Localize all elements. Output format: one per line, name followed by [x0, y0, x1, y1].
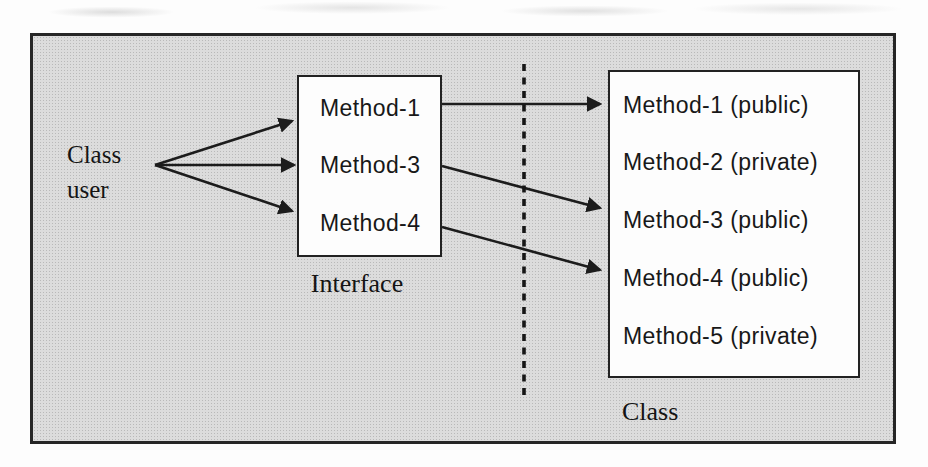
- interface-method-1: Method-1: [320, 94, 420, 122]
- class-method-1-public: Method-1 (public): [623, 91, 809, 119]
- scan-artifact-band: [0, 0, 928, 22]
- class-method-3-public: Method-3 (public): [623, 206, 809, 234]
- interface-caption: Interface: [297, 269, 417, 299]
- interface-method-3: Method-3: [320, 151, 420, 179]
- class-method-5-private: Method-5 (private): [623, 322, 818, 350]
- class-user-line1: Class: [67, 137, 121, 172]
- class-user-line2: user: [67, 172, 121, 207]
- diagram-canvas: Class user Method-1 Method-3 Method-4 In…: [0, 0, 928, 467]
- class-user-label: Class user: [67, 137, 121, 207]
- class-method-2-private: Method-2 (private): [623, 148, 818, 176]
- class-caption: Class: [622, 397, 678, 427]
- interface-method-4: Method-4: [320, 209, 420, 237]
- class-method-4-public: Method-4 (public): [623, 264, 809, 292]
